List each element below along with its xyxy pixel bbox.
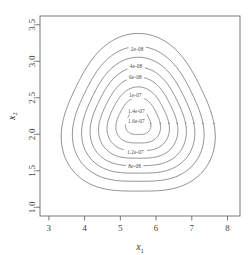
contour-label-1.2e-07: 1.2e-07	[127, 149, 144, 155]
contour-plot-figure: 2e-084e-086e-088e-081e-071.2e-071.4e-071…	[0, 0, 251, 255]
chart-canvas: 2e-084e-086e-088e-081e-071.2e-071.4e-071…	[0, 0, 251, 255]
y-tick-label: 2.0	[27, 128, 37, 140]
x-tick-label: 8	[225, 223, 230, 233]
y-tick-label: 1.5	[27, 165, 37, 177]
x-tick-label: 7	[189, 223, 194, 233]
contour-label-1.6e-07: 1.6e-07	[128, 118, 145, 124]
contour-label-8e-08: 8e-08	[128, 163, 141, 169]
x-tick-label: 4	[82, 223, 87, 233]
contour-label-1e-07: 1e-07	[129, 92, 142, 98]
y-tick-label: 2.5	[27, 92, 37, 104]
x-tick-label: 3	[47, 223, 52, 233]
y-tick-label: 3.5	[27, 19, 37, 31]
y-tick-label: 1.0	[27, 201, 37, 213]
contour-label-2e-08: 2e-08	[131, 46, 144, 52]
contour-label-1.4e-07: 1.4e-07	[128, 108, 145, 114]
contour-label-6e-08: 6e-08	[129, 74, 142, 80]
x-tick-label: 5	[118, 223, 123, 233]
y-axis-title: x2	[6, 112, 18, 121]
x-tick-label: 6	[154, 223, 159, 233]
x-axis-title: x1	[135, 241, 144, 254]
contour-label-4e-08: 4e-08	[130, 63, 143, 69]
y-tick-label: 3.0	[27, 55, 37, 67]
